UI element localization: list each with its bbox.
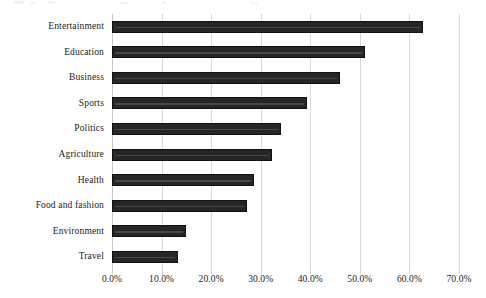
bar-row: Politics (0, 116, 486, 142)
x-tick-label: 60.0% (397, 274, 422, 284)
bar-row: Business (0, 65, 486, 91)
bar (112, 251, 178, 263)
bar (112, 72, 340, 84)
x-tick-label: 0.0% (102, 274, 122, 284)
x-tick-label: 10.0% (149, 274, 174, 284)
bar-row: Sports (0, 91, 486, 117)
x-tick-label: 30.0% (248, 274, 273, 284)
bar (112, 200, 247, 212)
bar (112, 225, 186, 237)
category-label: Business (0, 65, 104, 91)
x-tick-label: 20.0% (199, 274, 224, 284)
bar (112, 97, 307, 109)
bar (112, 123, 281, 135)
x-tick-label: 50.0% (347, 274, 372, 284)
category-label: Health (0, 168, 104, 194)
category-label: Sports (0, 91, 104, 117)
bar-row: Entertainment (0, 14, 486, 40)
bar (112, 174, 254, 186)
x-tick-label: 40.0% (298, 274, 323, 284)
bar (112, 46, 365, 58)
category-label: Entertainment (0, 14, 104, 40)
x-axis-tick-labels: 0.0%10.0%20.0%30.0%40.0%50.0%60.0%70.0% (0, 274, 486, 290)
x-tick-label: 70.0% (446, 274, 471, 284)
bar-chart: 0.0%10.0%20.0%30.0%40.0%50.0%60.0%70.0% … (0, 0, 486, 298)
bar-row: Health (0, 168, 486, 194)
bar-row: Food and fashion (0, 193, 486, 219)
scan-artifact (0, 0, 486, 10)
bar-row: Environment (0, 219, 486, 245)
bar-row: Agriculture (0, 142, 486, 168)
bar-row: Education (0, 40, 486, 66)
bar (112, 149, 272, 161)
category-label: Agriculture (0, 142, 104, 168)
category-label: Travel (0, 244, 104, 270)
bar (112, 21, 423, 33)
category-label: Food and fashion (0, 193, 104, 219)
bar-row: Travel (0, 244, 486, 270)
category-label: Environment (0, 219, 104, 245)
category-label: Politics (0, 116, 104, 142)
category-label: Education (0, 40, 104, 66)
